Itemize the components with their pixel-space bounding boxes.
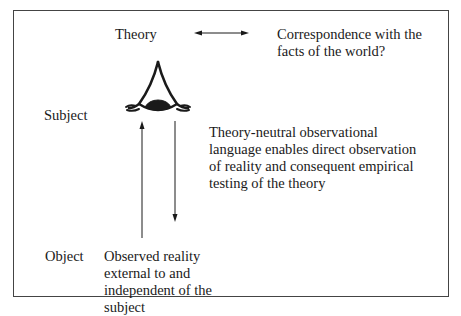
arrow-down-icon xyxy=(173,121,178,222)
arrow-up-icon xyxy=(140,121,145,238)
eye-icon xyxy=(126,62,190,111)
double-arrow-icon xyxy=(194,31,249,36)
